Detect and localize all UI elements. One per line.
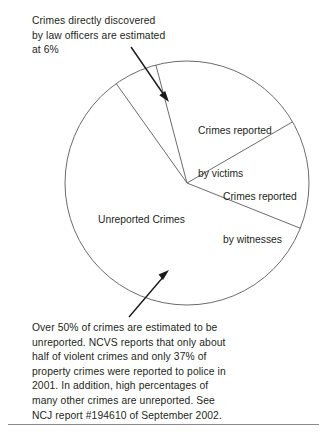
pie-chart-figure: Crimes directly discovered by law office… xyxy=(0,0,327,441)
annotation-unreported-line-5: 2001. In addition, high percentages of xyxy=(32,379,300,394)
pie-label-witnesses-line-2: by witnesses xyxy=(223,233,297,247)
annotation-unreported-line-2: unreported. NCVS reports that only about xyxy=(32,336,300,351)
pie-label-witnesses: Crimes reported by witnesses xyxy=(223,162,297,276)
footer-divider xyxy=(8,424,319,425)
annotation-unreported-line-1: Over 50% of crimes are estimated to be xyxy=(32,321,300,336)
annotation-unreported-line-6: many other crimes are unreported. See xyxy=(32,394,300,409)
annotation-unreported-line-7: NCJ report #194610 of September 2002. xyxy=(32,409,300,424)
pie-label-unreported: Unreported Crimes xyxy=(98,213,185,227)
annotation-unreported-line-4: property crimes were reported to police … xyxy=(32,365,300,380)
annotation-unreported-line-3: half of violent crimes and only 37% of xyxy=(32,350,300,365)
pie-label-victims-line-1: Crimes reported xyxy=(198,124,272,138)
annotation-unreported-detail: Over 50% of crimes are estimated to be u… xyxy=(32,321,300,423)
pie-label-witnesses-line-1: Crimes reported xyxy=(223,190,297,204)
